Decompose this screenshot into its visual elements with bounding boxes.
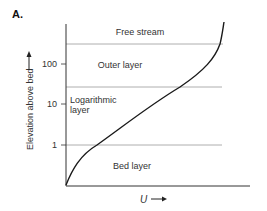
layer-label-bed: Bed layer: [113, 161, 151, 171]
y-tick-label-1: 1: [52, 140, 57, 150]
x-axis-title: U: [140, 194, 148, 205]
y-tick-label-100: 100: [42, 59, 57, 69]
layer-label-outer: Outer layer: [98, 60, 143, 70]
panel-label: A.: [12, 8, 23, 20]
y-axis-arrow-icon: [27, 51, 32, 70]
layer-label-log-line2: layer: [70, 105, 90, 115]
layer-label-log-line1: Logarithmic: [70, 95, 117, 105]
y-tick-label-10: 10: [47, 99, 57, 109]
y-axis-title: Elevation above bed: [25, 68, 35, 150]
velocity-profile-diagram: A. 100 10 1 Elevation above bed Free str…: [0, 0, 267, 211]
x-axis-arrow-icon: [151, 197, 167, 202]
layer-label-free-stream: Free stream: [116, 27, 165, 37]
